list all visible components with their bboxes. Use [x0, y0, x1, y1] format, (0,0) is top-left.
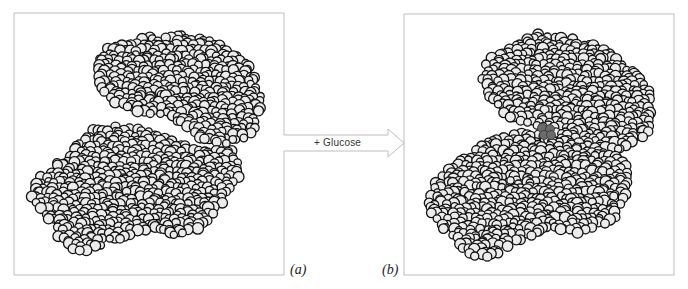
- atom-sphere: [123, 102, 131, 110]
- atom-sphere: [200, 134, 209, 143]
- atom-sphere: [524, 119, 532, 127]
- protein-molecule-open: [26, 31, 265, 256]
- atom-sphere: [146, 110, 154, 118]
- arrow-label-glucose: + Glucose: [314, 137, 361, 148]
- atom-sphere: [75, 246, 84, 255]
- glucose-atom: [547, 131, 556, 140]
- atom-sphere: [601, 219, 610, 228]
- panel-b: [404, 14, 674, 275]
- atom-sphere: [502, 241, 513, 252]
- atom-sphere: [572, 227, 583, 238]
- protein-molecule-closed: [424, 29, 655, 261]
- atom-sphere: [106, 235, 113, 242]
- atom-sphere: [132, 106, 143, 117]
- atom-sphere: [505, 112, 515, 122]
- atom-sphere: [495, 101, 502, 108]
- atom-sphere: [507, 177, 514, 184]
- atom-sphere: [43, 214, 53, 224]
- atom-sphere: [157, 110, 164, 117]
- panel-a: [14, 13, 284, 275]
- panel-label-a: (a): [290, 262, 306, 278]
- atom-sphere: [483, 252, 492, 261]
- atom-sphere: [116, 235, 125, 244]
- atom-sphere: [179, 229, 187, 237]
- panel-label-b: (b): [382, 262, 398, 278]
- atom-sphere: [439, 224, 449, 234]
- atom-sphere: [170, 231, 177, 238]
- atom-sphere: [471, 252, 479, 260]
- atom-sphere: [527, 231, 536, 240]
- atom-sphere: [240, 134, 248, 142]
- atom-sphere: [638, 132, 647, 141]
- atom-sphere: [555, 224, 566, 235]
- glucose-ligand: [538, 124, 556, 140]
- atom-sphere: [192, 223, 203, 234]
